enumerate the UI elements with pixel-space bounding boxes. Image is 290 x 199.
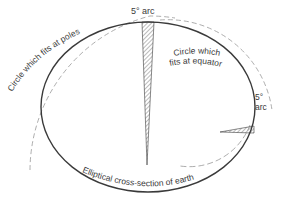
equator-circle-label-line2: fits at equator [168, 55, 223, 69]
ellipse-label-path: Elliptical cross-section of earth [81, 165, 195, 189]
equator-circle-label-path2: fits at equator [168, 55, 223, 69]
top-wedge [142, 22, 154, 165]
right-arc-label-line1: 5° [255, 92, 263, 102]
ellipse-label: Elliptical cross-section of earth [81, 165, 195, 189]
poles-circle-label: Circle which fits at poles [5, 26, 81, 93]
top-arc-label: 5° arc [131, 6, 155, 16]
earth-ellipse-diagram: 5° arc 5° arc Circle which fits at poles… [0, 0, 290, 199]
right-arc-label-line2: arc [255, 102, 268, 112]
poles-circle-label-path: Circle which fits at poles [5, 26, 81, 93]
right-wedge [220, 126, 254, 133]
